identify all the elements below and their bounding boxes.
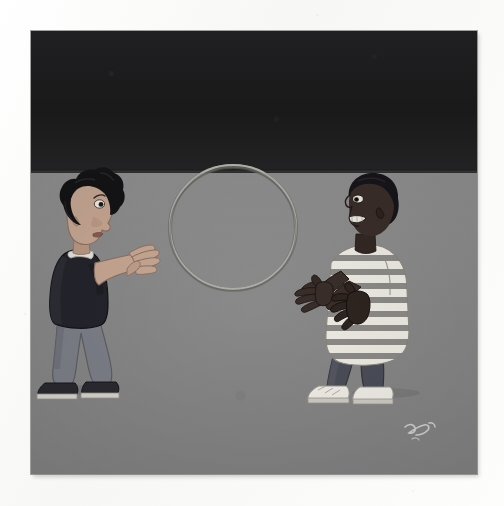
page-root: Two children playing with a hoop gouache… [0, 0, 504, 506]
artwork-plate [31, 31, 477, 474]
scene-figures [31, 31, 477, 474]
ground-vignette [31, 173, 477, 474]
